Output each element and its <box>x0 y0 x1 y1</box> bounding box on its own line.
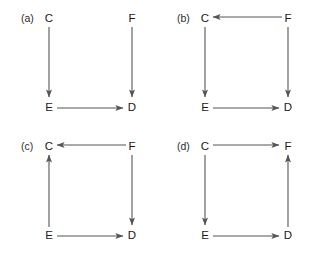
node-E: E <box>43 101 55 113</box>
node-E: E <box>199 229 211 241</box>
panel-c: (c) C F E D <box>0 128 155 256</box>
panel-b: (b) C F E D <box>156 0 311 128</box>
node-E: E <box>43 229 55 241</box>
node-C: C <box>43 140 55 152</box>
node-F: F <box>126 140 138 152</box>
figure-panels-container: (a) C F E D (b) C F E D <box>0 0 311 256</box>
node-F: F <box>126 12 138 24</box>
node-D: D <box>126 229 138 241</box>
node-C: C <box>199 140 211 152</box>
node-F: F <box>282 12 294 24</box>
panel-a: (a) C F E D <box>0 0 155 128</box>
node-D: D <box>282 229 294 241</box>
node-C: C <box>43 12 55 24</box>
panel-label-c: (c) <box>21 140 33 152</box>
node-D: D <box>126 101 138 113</box>
node-D: D <box>282 101 294 113</box>
node-E: E <box>199 101 211 113</box>
panel-label-a: (a) <box>21 12 34 24</box>
panel-d: (d) C F E D <box>156 128 311 256</box>
node-F: F <box>282 140 294 152</box>
panel-label-b: (b) <box>177 12 190 24</box>
panel-label-d: (d) <box>177 140 190 152</box>
node-C: C <box>199 12 211 24</box>
